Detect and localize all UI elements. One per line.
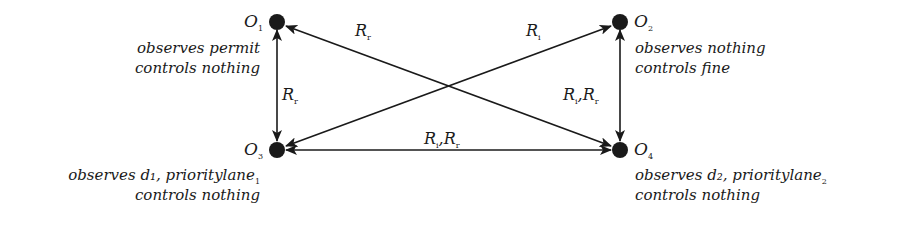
node-o3-name: O3 — [244, 140, 263, 166]
edge-label-o1-o3: Rr — [282, 86, 298, 111]
node-o2-observes: observes nothing — [635, 40, 766, 57]
node-o1-name: O1 — [244, 12, 263, 38]
edge-label-o4-o1: Rr — [355, 22, 371, 47]
node-o1 — [269, 14, 285, 30]
node-o3-controls: controls nothing — [135, 187, 260, 204]
edge-label-o3-o4: Ri,Rr — [424, 130, 460, 155]
node-o1-observes: observes permit — [137, 40, 260, 57]
node-o3 — [269, 142, 285, 158]
node-o2-name: O2 — [634, 12, 653, 38]
edge-label-o3-o2: Ri — [526, 22, 541, 47]
node-o4 — [612, 142, 628, 158]
node-o4-name: O4 — [634, 140, 653, 166]
edge-label-o2-o4: Ri,Rr — [563, 86, 599, 111]
node-o1-controls: controls nothing — [135, 60, 260, 77]
node-o2 — [612, 14, 628, 30]
node-o4-controls: controls nothing — [635, 187, 760, 204]
node-o2-controls: controls fine — [635, 60, 730, 77]
